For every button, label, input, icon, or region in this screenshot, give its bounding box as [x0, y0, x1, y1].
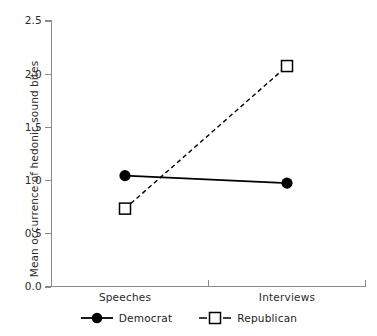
legend-item-republican: Republican	[198, 311, 297, 325]
democrat-datapoint-speeches	[119, 170, 130, 181]
legend-item-democrat: Democrat	[80, 311, 172, 325]
filled-circle-icon	[80, 311, 114, 325]
chart-legend: Democrat Republican	[0, 311, 377, 325]
democrat-series-line	[125, 176, 287, 183]
republican-datapoint-speeches	[120, 203, 131, 214]
republican-datapoint-interviews	[282, 61, 293, 72]
legend-label-democrat: Democrat	[119, 312, 172, 324]
plot-area	[0, 0, 377, 336]
democrat-datapoint-interviews	[281, 177, 292, 188]
line-chart-figure: Mean occurrence of hedonic sound bites 2…	[0, 0, 377, 336]
open-square-icon	[198, 311, 232, 325]
republican-series-line	[125, 66, 287, 209]
legend-label-republican: Republican	[237, 312, 297, 324]
